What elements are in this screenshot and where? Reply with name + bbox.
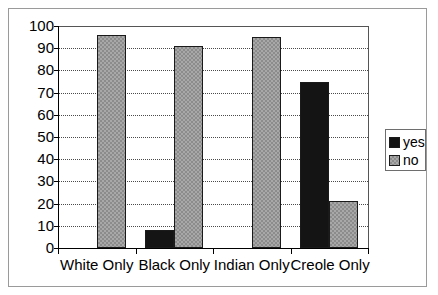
y-axis-tick-label: 30 xyxy=(2,173,54,188)
bar-black-only-no xyxy=(174,46,203,248)
x-axis-label-black-only: Black Only xyxy=(136,256,214,273)
y-axis-tick-label: 50 xyxy=(2,129,54,144)
plot-frame-top xyxy=(58,26,369,27)
bar-indian-only-no xyxy=(252,37,281,248)
legend-item-yes: yes xyxy=(389,133,425,151)
y-axis-tick-label: 20 xyxy=(2,196,54,211)
x-axis-tick-mark xyxy=(291,249,292,254)
plot-frame-right xyxy=(368,26,369,249)
x-axis-label-indian-only: Indian Only xyxy=(213,256,291,273)
legend-swatch-yes-icon xyxy=(389,137,400,148)
y-axis-tick-label: 70 xyxy=(2,85,54,100)
bar-creole-only-no xyxy=(329,201,358,248)
legend-label-no: no xyxy=(403,153,419,167)
legend-item-no: no xyxy=(389,151,425,169)
x-axis-tick-mark xyxy=(136,249,137,254)
y-axis-tick-label: 100 xyxy=(2,18,54,33)
x-axis-tick-mark xyxy=(58,249,59,254)
bar-white-only-no xyxy=(97,35,126,248)
bar-black-only-yes xyxy=(145,230,174,248)
x-axis-label-creole-only: Creole Only xyxy=(291,256,369,273)
y-axis: 0102030405060708090100 xyxy=(0,0,54,295)
legend-label-yes: yes xyxy=(403,135,425,149)
y-axis-spine xyxy=(58,26,59,249)
figure-border xyxy=(8,8,427,287)
y-axis-tick-label: 90 xyxy=(2,40,54,55)
x-axis-tick-mark xyxy=(213,249,214,254)
y-axis-tick-label: 10 xyxy=(2,218,54,233)
legend-swatch-no-icon xyxy=(389,155,400,166)
y-axis-tick-label: 40 xyxy=(2,151,54,166)
y-axis-tick-label: 80 xyxy=(2,62,54,77)
x-axis-label-white-only: White Only xyxy=(58,256,136,273)
y-axis-tick-label: 60 xyxy=(2,107,54,122)
x-axis-tick-mark xyxy=(368,249,369,254)
chart-legend: yes no xyxy=(385,129,426,171)
y-axis-tick-label: 0 xyxy=(2,240,54,255)
bar-creole-only-yes xyxy=(300,82,329,249)
chart-figure: 0102030405060708090100 White OnlyBlack O… xyxy=(0,0,438,295)
